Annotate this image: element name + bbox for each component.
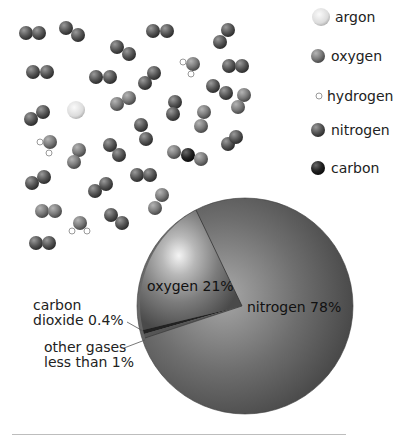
legend-label-nitrogen: nitrogen [331,122,390,138]
oxygen-molecule [110,91,136,111]
legend-label-argon: argon [335,9,375,25]
carbon-dioxide-molecule [167,145,208,166]
argon-atom [67,101,85,119]
bottom-divider [12,434,346,435]
hydrogen-atom-icon [316,93,322,99]
legend-label-oxygen: oxygen [331,48,382,64]
argon-atom-icon [312,8,330,26]
oxygen-atom-icon [311,49,325,63]
nitrogen-molecule [29,236,56,250]
legend-label-carbon: carbon [331,160,379,176]
oxygen-molecule [67,143,86,169]
label-carbon-dioxide-line2: dioxide 0.4% [33,312,124,328]
nitrogen-molecule [206,79,233,100]
pie-label-nitrogen: nitrogen 78% [247,299,341,315]
nitrogen-molecule [103,138,126,162]
nitrogen-molecule [222,59,249,73]
oxygen-molecule [88,177,113,198]
nitrogen-molecule [26,65,54,79]
nitrogen-molecule [221,130,243,151]
nitrogen-molecule [89,70,117,84]
water-molecule [180,57,200,77]
label-other-gases-line2: less than 1% [44,354,134,370]
nitrogen-molecule [59,21,85,42]
nitrogen-molecule [213,23,235,49]
nitrogen-molecule [146,24,174,38]
legend-label-hydrogen: hydrogen [327,88,393,104]
water-molecule [69,216,90,234]
oxygen-molecule [35,204,62,218]
pie-label-oxygen: oxygen 21% [147,278,234,294]
nitrogen-molecule [138,66,161,90]
nitrogen-atom-icon [311,123,325,137]
label-other-gases-line1: other gases [44,339,126,355]
water-molecule [37,135,57,156]
nitrogen-molecule [19,26,46,40]
oxygen-molecule [231,88,251,114]
nitrogen-molecule [130,168,157,182]
label-carbon-dioxide-line1: carbon [33,297,81,313]
nitrogen-molecule [25,170,51,190]
oxygen-molecule [194,105,211,133]
leader-line-other-gases [124,340,145,348]
carbon-atom-icon [311,161,325,175]
nitrogen-molecule [110,40,136,61]
oxygen-molecule [148,188,169,215]
nitrogen-molecule [24,105,50,126]
nitrogen-molecule [104,208,129,230]
